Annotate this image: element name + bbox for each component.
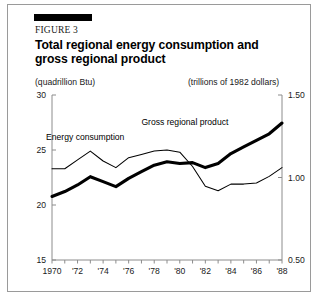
right-axis-unit-label: (trillions of 1982 dollars): [188, 77, 279, 87]
x-axis-tick-label: '84: [225, 266, 236, 276]
right-axis-tick-label: 1.50: [288, 90, 305, 100]
right-axis-tick-label: 0.50: [288, 255, 305, 265]
x-axis-tick-label: 1970: [42, 266, 61, 276]
chart-annotations: Energy consumptionGross regional product: [46, 117, 229, 142]
series-annotation-label: Energy consumption: [46, 132, 125, 142]
chart-plot-area: 30252015 1.501.000.50 1970'72'74'76'78'8…: [8, 87, 312, 287]
x-axis-tick-label: '82: [200, 266, 211, 276]
series-annotation-label: Gross regional product: [141, 117, 229, 127]
figure-number-label: FIGURE 3: [35, 25, 78, 35]
x-axis: 1970'72'74'76'78'80'82'84'86'88: [42, 260, 287, 276]
x-axis-tick-label: '72: [72, 266, 83, 276]
left-axis-unit-label: (quadrillion Btu): [35, 77, 95, 87]
figure-rule-bar: [34, 14, 92, 21]
left-axis-tick-label: 20: [36, 200, 46, 210]
left-axis: 30252015: [36, 90, 56, 265]
line-chart: 30252015 1.501.000.50 1970'72'74'76'78'8…: [8, 87, 312, 287]
x-axis-tick-label: '74: [98, 266, 109, 276]
right-axis-tick-label: 1.00: [288, 173, 305, 183]
figure-title: Total regional energy consumption and gr…: [35, 38, 293, 66]
figure-container: FIGURE 3 Total regional energy consumpti…: [7, 4, 311, 292]
x-axis-tick-label: '86: [251, 266, 262, 276]
x-axis-tick-label: '88: [276, 266, 287, 276]
x-axis-tick-label: '76: [123, 266, 134, 276]
right-axis: 1.501.000.50: [278, 90, 305, 265]
x-axis-tick-label: '78: [149, 266, 160, 276]
x-axis-tick-label: '80: [174, 266, 185, 276]
series-energy-consumption: [52, 150, 282, 191]
left-axis-tick-label: 15: [36, 255, 46, 265]
left-axis-tick-label: 30: [36, 90, 46, 100]
left-axis-tick-label: 25: [36, 145, 46, 155]
